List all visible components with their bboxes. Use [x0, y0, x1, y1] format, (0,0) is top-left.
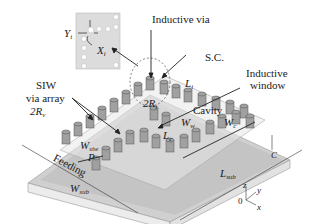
label-2ri: 2Ri	[143, 98, 157, 113]
substrate	[28, 76, 290, 224]
label-wc: Wc	[224, 117, 236, 132]
label-inset-y: Yi	[64, 28, 72, 43]
label-ww: Ww	[181, 117, 195, 132]
axis-y-label: y	[257, 185, 261, 196]
axis-z-label: z	[243, 180, 247, 191]
label-lsub: Lsub	[220, 168, 236, 183]
label-li: Li	[185, 78, 193, 93]
label-inductive-window-2: window	[250, 80, 285, 91]
label-cavity: Cavity	[193, 105, 222, 116]
label-2rv: 2Rv	[30, 106, 45, 121]
label-inductive-via: Inductive via	[152, 14, 210, 25]
label-c: C	[271, 150, 277, 161]
label-siw: SIW	[36, 80, 56, 91]
axis-x-label: x	[257, 202, 261, 213]
label-inset-x: Xi	[97, 45, 106, 60]
label-sc: S.C.	[205, 52, 224, 63]
label-inductive-window-1: Inductive	[246, 68, 288, 79]
label-p: P	[88, 152, 95, 163]
label-via-array: via array	[26, 93, 65, 104]
label-wsub: Wsub	[70, 183, 89, 198]
label-lc: Lc	[163, 130, 172, 145]
axis-origin-label: 0	[238, 196, 243, 207]
inset-detail	[76, 13, 120, 69]
